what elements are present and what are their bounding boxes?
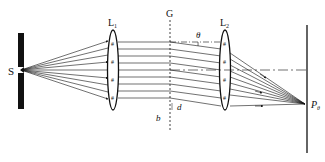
diffracted-rays (170, 42, 221, 106)
point-label: Pθ (310, 99, 320, 111)
grating-diffraction-diagram: S # # # # L1 G (0, 0, 325, 162)
svg-text:#: # (111, 59, 114, 65)
grating-label: G (166, 8, 173, 19)
svg-text:#: # (223, 77, 226, 83)
grating-period-label: d (177, 102, 182, 112)
lens-l1: # # # # (108, 30, 119, 110)
lens2-label: L2 (220, 17, 229, 29)
svg-text:#: # (223, 59, 226, 65)
diverging-rays (21, 41, 108, 99)
svg-text:#: # (223, 95, 226, 101)
lens1-label: L1 (108, 17, 117, 29)
source-label: S (8, 65, 14, 77)
slit-width-label: b (156, 113, 161, 123)
theta-label: θ (196, 30, 201, 40)
converging-rays (230, 53, 305, 106)
svg-text:#: # (111, 77, 114, 83)
parallel-rays (118, 42, 170, 98)
svg-text:#: # (111, 41, 114, 47)
svg-text:#: # (223, 41, 226, 47)
svg-text:#: # (111, 95, 114, 101)
